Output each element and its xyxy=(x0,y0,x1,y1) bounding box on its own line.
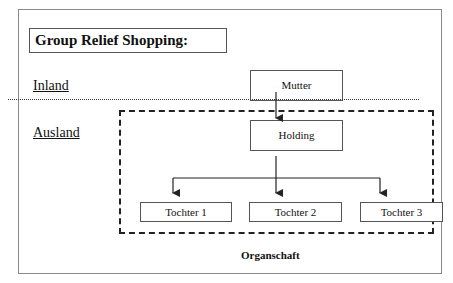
connector-arrows xyxy=(0,0,453,283)
group-label-organschaft: Organschaft xyxy=(241,249,300,261)
